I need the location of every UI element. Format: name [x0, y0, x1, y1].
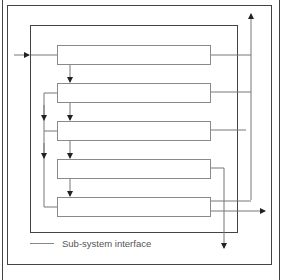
legend: Sub-system interface: [30, 238, 151, 249]
left-bus: [44, 93, 57, 207]
bottom-output: [211, 168, 224, 248]
legend-label: Sub-system interface: [62, 238, 151, 249]
legend-line-swatch: [30, 243, 54, 244]
